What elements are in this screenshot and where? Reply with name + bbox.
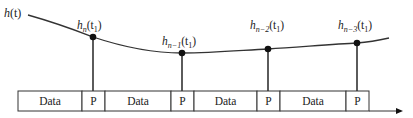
segment-label: P	[354, 95, 360, 107]
sample-point-2: hn−1(t1)	[162, 35, 196, 91]
svg-text:hn−1(t1): hn−1(t1)	[162, 35, 196, 50]
segment-label: P	[90, 95, 96, 107]
curve-label: h(t)	[4, 6, 21, 20]
segment-label: Data	[302, 95, 324, 107]
sample-point-4: hn−3(t1)	[338, 19, 372, 91]
pilot-channel-sampling-diagram: h(t) hn(t1) hn−1(t1) hn−2(t1) hn−3(t1) D…	[0, 0, 413, 118]
segment-label: P	[265, 95, 271, 107]
sample-dot-icon	[90, 34, 97, 41]
arrow-right-icon	[396, 108, 403, 114]
sample-point-3: hn−2(t1)	[250, 19, 284, 91]
svg-text:hn−2(t1): hn−2(t1)	[250, 19, 284, 34]
segment-label: Data	[215, 95, 237, 107]
sample-dot-icon	[354, 40, 361, 47]
segment-label: P	[179, 95, 185, 107]
segment-label: Data	[127, 95, 149, 107]
sample-dot-icon	[179, 50, 186, 57]
segment-label: Data	[39, 95, 61, 107]
sample-dot-icon	[265, 46, 272, 53]
sample-point-1: hn(t1)	[77, 19, 102, 91]
svg-text:hn−3(t1): hn−3(t1)	[338, 19, 372, 34]
